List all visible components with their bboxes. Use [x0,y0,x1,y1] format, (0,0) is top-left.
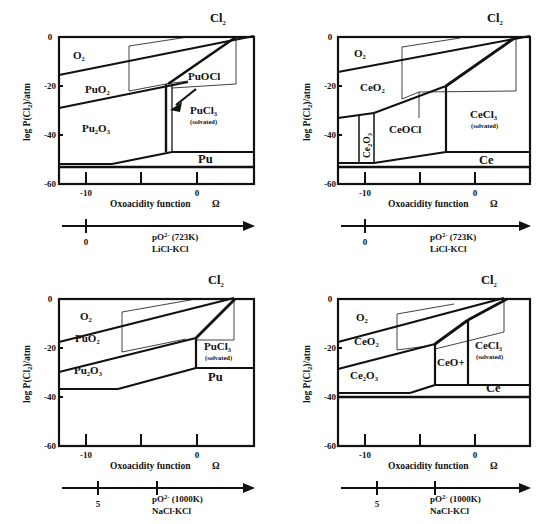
x-tick-minus10: -10 [359,450,371,460]
region-label-ceo2: CeO2 [360,81,385,94]
secondary-axis-solvent: NaCl-KCl [430,506,469,516]
region-label-ce2o3: Ce2O3 [350,369,379,382]
y-tick-60: -60 [44,441,56,451]
region-label-puocl: PuOCl [188,70,220,82]
panel-ce-1000k: 0 -20 -40 -60 log P(Cl2)/atm -10 0 Oxoac… [274,262,547,524]
region-label-cl2: Cl2 [210,11,226,26]
y-tick-60: -60 [44,179,56,189]
secondary-axis-tick-label: 0 [363,237,368,247]
secondary-axis-tick-label: 0 [84,237,89,247]
region-label-pucl3-note: (solvated) [205,354,232,362]
region-label-cecl3: CeCl3 [470,108,498,121]
x-tick-minus10: -10 [80,188,92,198]
secondary-axis-po2 [62,481,255,495]
y-tick-20: -20 [324,343,336,353]
secondary-axis-po2 [341,219,531,233]
region-label-ce: Ce [486,381,501,395]
region-label-puo2: PuO2 [85,83,110,96]
region-label-ceo2: CeO2 [354,335,379,348]
x-tick-minus10: -10 [80,450,92,460]
y-axis-label-tail: )/atm [22,345,33,367]
region-label-pu: Pu [198,152,213,166]
region-label-ce2o3: Ce2O3 [362,132,373,158]
axis-frame [338,37,530,184]
phase-diagram-ce-1000k: 0 -20 -40 -60 log P(Cl2)/atm -10 0 Oxoac… [274,262,547,524]
y-tick-20: -20 [44,343,56,353]
x-tick-0: 0 [195,450,200,460]
y-tick-0: 0 [328,32,333,42]
x-axis-label: Oxoacidity function [110,199,191,209]
region-label-pu2o3: Pu2O3 [82,122,111,135]
y-axis-label: log P(Cl2)/atm [22,345,33,403]
y-axis-label-tail: )/atm [302,83,313,105]
region-label-cl2: Cl2 [487,11,503,26]
region-label-pu: Pu [208,370,223,384]
panel-ce-723k: 0 -20 -40 -60 log P(Cl2)/atm -10 0 Oxoac… [274,0,547,262]
phase-diagram-pu-1000k: 0 -20 -40 -60 log P(Cl2)/atm -10 0 Oxoac… [0,262,274,524]
secondary-axis-caption: pO2- (723K) [152,231,198,242]
region-label-ce: Ce [479,153,494,167]
region-label-pucl3: PuCl3 [190,104,218,117]
y-tick-20: -20 [44,81,56,91]
region-label-o2: O2 [80,310,92,323]
region-label-o2: O2 [354,47,366,60]
y-tick-40: -40 [324,130,336,140]
x-ticks [365,434,475,446]
x-axis-symbol: Ω [212,461,220,471]
secondary-axis-tick-label: 5 [375,499,380,509]
region-label-cecl3: CeCl3 [475,339,503,352]
region-label-ceo-plus: CeO+ [437,356,465,368]
y-axis-label-main: log P(Cl [302,370,313,403]
panel-pu-723k: 0 -20 -40 -60 log P(Cl2)/atm -10 0 Oxoac… [0,0,274,262]
region-label-pucl3-note: (solvated) [190,118,217,126]
panel-pu-1000k: 0 -20 -40 -60 log P(Cl2)/atm -10 0 Oxoac… [0,262,274,524]
y-axis-label: log P(Cl2)/atm [302,345,313,403]
x-axis-label: Oxoacidity function [388,199,469,209]
secondary-axis-po2 [341,481,531,495]
region-label-pu2o3: Pu2O3 [74,364,103,377]
y-tick-40: -40 [44,392,56,402]
region-label-cecl3-note: (solvated) [476,353,503,361]
region-label-cl2: Cl2 [208,273,224,288]
y-tick-60: -60 [324,179,336,189]
secondary-axis-caption: pO2- (1000K) [152,493,203,504]
y-axis-label-tail: )/atm [302,345,313,367]
secondary-axis-caption: pO2- (723K) [430,231,476,242]
svg-text:log P(Cl2)/atm: log P(Cl2)/atm [22,83,33,141]
x-axis-symbol: Ω [212,199,220,209]
secondary-axis-po2 [62,219,255,233]
x-axis-symbol: Ω [490,461,498,471]
x-tick-minus10: -10 [359,188,371,198]
phase-diagram-pu-723k: 0 -20 -40 -60 log P(Cl2)/atm -10 0 Oxoac… [0,0,274,262]
svg-text:log P(Cl2)/atm: log P(Cl2)/atm [302,83,313,141]
x-tick-0: 0 [473,450,478,460]
y-axis-label-main: log P(Cl [302,108,313,141]
y-axis-label: log P(Cl2)/atm [302,83,313,141]
x-axis-symbol: Ω [490,199,498,209]
region-label-pucl3: PuCl3 [204,340,232,353]
region-label-ceocl: CeOCl [389,123,421,135]
y-axis-label: log P(Cl2)/atm [22,83,33,141]
secondary-axis-tick-label: 5 [96,499,101,509]
y-axis-label-main: log P(Cl [22,108,33,141]
x-tick-0: 0 [473,188,478,198]
region-label-o2: O2 [356,311,368,324]
y-axis-label-main: log P(Cl [22,370,33,403]
y-tick-60: -60 [324,441,336,451]
x-ticks [86,434,197,446]
x-ticks [365,172,475,184]
svg-text:log P(Cl2)/atm: log P(Cl2)/atm [302,345,313,403]
svg-text:log P(Cl2)/atm: log P(Cl2)/atm [22,345,33,403]
secondary-axis-solvent: NaCl-KCl [152,506,191,516]
svg-text:Ce2O3: Ce2O3 [362,132,373,158]
x-tick-0: 0 [195,188,200,198]
phase-boundaries [59,36,254,167]
y-tick-40: -40 [324,392,336,402]
region-label-o2: O2 [73,49,85,62]
region-label-puo2: PuO2 [75,332,100,345]
phase-diagram-ce-723k: 0 -20 -40 -60 log P(Cl2)/atm -10 0 Oxoac… [274,0,547,262]
region-label-cecl3-note: (solvated) [471,122,498,130]
y-axis-label-tail: )/atm [22,83,33,105]
y-tick-0: 0 [48,294,53,304]
x-axis-label: Oxoacidity function [388,461,469,471]
